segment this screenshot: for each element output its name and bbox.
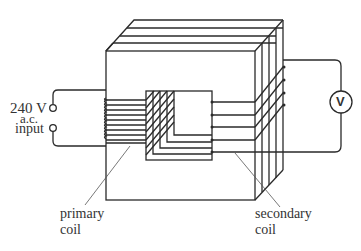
primary-coil	[105, 91, 175, 155]
secondary-coil-label-2: coil	[255, 223, 276, 237]
input-word-label: input	[15, 122, 44, 136]
terminal-dot	[211, 101, 214, 104]
primary-leader-line	[85, 146, 130, 205]
terminal-dot	[211, 139, 214, 142]
secondary-coil	[255, 66, 286, 141]
input-circuit	[50, 90, 106, 146]
terminal-dot	[211, 126, 214, 129]
primary-coil-label-2: coil	[60, 223, 81, 237]
primary-coil-label: primary	[60, 207, 104, 221]
voltmeter-label: V	[336, 95, 345, 109]
secondary-coil-label: secondary	[255, 207, 312, 221]
terminal-dot	[211, 114, 214, 117]
input-terminal-top	[50, 105, 57, 112]
secondary-leads	[153, 101, 255, 155]
input-terminal-bottom	[50, 125, 57, 132]
